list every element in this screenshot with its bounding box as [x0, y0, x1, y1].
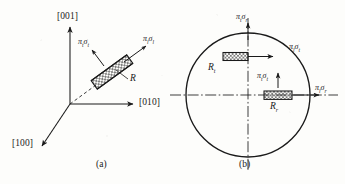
panel-a: [001] [010] [100] πtσt πlσl R (a) [0, 0, 175, 184]
stress-label-longitudinal: πlσl [143, 35, 154, 45]
sigma-subscript: l [153, 39, 155, 45]
R-subscript-t: t [214, 68, 216, 74]
construction-line [70, 85, 96, 104]
pi-subscript-c: t [261, 76, 263, 82]
caption-a: (a) [96, 160, 107, 170]
pi-subscript-ur: l [293, 47, 295, 53]
resistor-label-Rt: Rt [208, 63, 215, 74]
axis-label-100: [100] [12, 139, 33, 149]
sigma-subscript-c: t [267, 76, 269, 82]
stress-arrow-longitudinal [124, 46, 146, 62]
stress-arrow-transverse [92, 50, 104, 66]
resistor-label-Rr: Rr [270, 102, 278, 113]
pi-subscript-r: l [319, 88, 321, 94]
stress-label-right: πlσr [315, 84, 327, 94]
sigma-subscript: t [88, 42, 90, 48]
panel-b: πtσr πlσt πtσt πlσr Rt Rr (b) [175, 0, 345, 184]
R-subscript-r: r [276, 107, 278, 113]
stress-label-center: πtσt [257, 72, 268, 82]
axis-line-100 [42, 104, 70, 146]
pi-subscript-top: t [240, 17, 242, 23]
resistor-label-R: R [130, 74, 136, 84]
stress-label-top: πtσr [236, 13, 248, 23]
stress-label-upper-right: πlσt [289, 43, 300, 53]
axis-label-010: [010] [139, 98, 160, 108]
resistor-body-Rt [223, 53, 248, 61]
resistor-body-Rr [264, 91, 292, 99]
panel-a-graphics [0, 0, 175, 184]
sigma-subscript-ur: t [299, 47, 301, 53]
caption-b: (b) [239, 160, 250, 170]
axis-label-001: [001] [57, 12, 78, 22]
sigma-subscript-r: r [325, 88, 327, 94]
sigma-subscript-top: r [246, 17, 248, 23]
stress-label-transverse: πtσt [78, 38, 89, 48]
